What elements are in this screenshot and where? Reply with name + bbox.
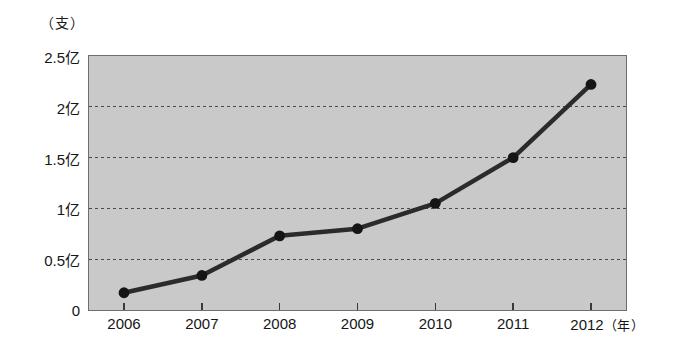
x-tick-label: 2007 — [185, 315, 218, 332]
x-tick-label: 2006 — [107, 315, 140, 332]
x-tick-label: 2010 — [419, 315, 452, 332]
y-tick-label: 0.5亿 — [44, 249, 80, 270]
y-tick-label: 1亿 — [57, 198, 80, 219]
x-tick-label: 2012 — [570, 316, 603, 333]
data-point-marker[interactable] — [196, 270, 207, 281]
x-tick-label: 2011 — [497, 315, 529, 332]
y-tick-label: 2亿 — [57, 96, 80, 117]
data-point-marker[interactable] — [119, 287, 130, 298]
series-line — [124, 84, 591, 292]
x-tick-label: 2009 — [341, 315, 374, 332]
data-point-marker[interactable] — [586, 79, 597, 90]
plot-inner — [89, 56, 626, 310]
data-point-marker[interactable] — [274, 230, 285, 241]
line-chart: （支） 2.5亿 2亿 1.5亿 1亿 0.5亿 0 2006 2007 200… — [0, 0, 683, 355]
x-axis-tick-labels: 2006 2007 2008 2009 2010 2011 2012（年） — [0, 315, 683, 345]
data-point-marker[interactable] — [430, 198, 441, 209]
series-layer — [89, 56, 626, 310]
x-axis-unit-label: （年） — [604, 318, 645, 333]
y-tick-label: 2.5亿 — [44, 46, 80, 67]
data-point-marker[interactable] — [352, 223, 363, 234]
x-tick-label-last: 2012（年） — [570, 315, 644, 334]
data-point-marker[interactable] — [508, 152, 519, 163]
x-tick-label: 2008 — [263, 315, 296, 332]
y-axis-tick-labels: 2.5亿 2亿 1.5亿 1亿 0.5亿 0 — [0, 0, 88, 355]
plot-area — [88, 55, 627, 311]
y-tick-label: 1.5亿 — [44, 147, 80, 168]
